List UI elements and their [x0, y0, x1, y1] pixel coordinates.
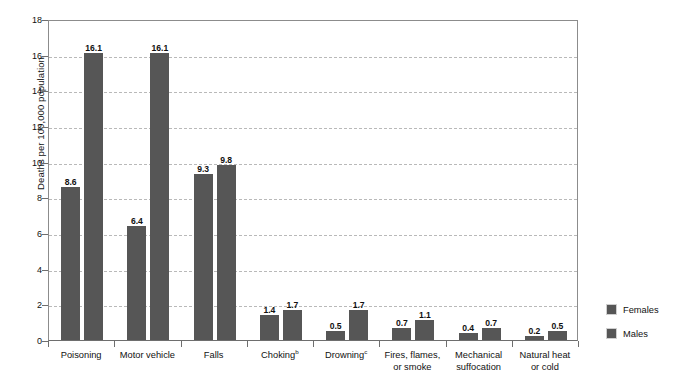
legend-label: Males [623, 329, 648, 339]
x-axis-tick-mark [446, 341, 447, 347]
plot-area: 8.616.16.416.19.39.81.41.70.51.70.71.10.… [48, 20, 578, 341]
x-axis-tick-mark [247, 341, 248, 347]
y-axis-tick-label: 14 [2, 86, 42, 96]
bar [392, 328, 411, 340]
bar [150, 53, 169, 340]
category-label-line1: Fires, flames, [384, 350, 440, 362]
bar-value-label: 0.4 [462, 323, 474, 333]
bar [217, 165, 236, 340]
bar-value-label: 1.1 [419, 310, 431, 320]
bar-value-label: 16.1 [85, 43, 102, 53]
bar-value-label: 0.5 [330, 321, 342, 331]
bar [482, 328, 501, 340]
category-label-line2: suffocation [455, 362, 502, 374]
bar [525, 336, 544, 340]
gridline [49, 199, 577, 200]
y-axis-tick-label: 4 [2, 265, 42, 275]
category-label-line1: Drowningc [325, 350, 367, 362]
bar-value-label: 0.5 [551, 321, 563, 331]
x-axis-category-label: Fires, flames,or smoke [384, 350, 440, 373]
bar [61, 187, 80, 340]
x-axis-tick-mark [578, 341, 579, 347]
legend-swatch-icon [606, 328, 617, 339]
y-axis-tick-label: 10 [2, 158, 42, 168]
category-label-line2: or smoke [384, 362, 440, 374]
category-label-line2: or cold [520, 362, 571, 374]
gridline [49, 57, 577, 58]
bar-value-label: 6.4 [131, 216, 143, 226]
x-axis-category-label: Motor vehicle [120, 350, 175, 362]
bar [326, 331, 345, 340]
bar [127, 226, 146, 340]
bar-value-label: 1.4 [263, 305, 275, 315]
gridline [49, 164, 577, 165]
category-footnote-marker: c [364, 348, 367, 355]
y-axis-tick-label: 2 [2, 300, 42, 310]
y-axis-tick-label: 18 [2, 15, 42, 25]
x-axis-tick-mark [512, 341, 513, 347]
gridline [49, 92, 577, 93]
x-axis-category-label: Chokingb [261, 350, 299, 362]
x-axis-category-label: Natural heator cold [520, 350, 571, 373]
x-axis-category-label: Drowningc [325, 350, 367, 362]
bar-value-label: 9.3 [197, 164, 209, 174]
bar-value-label: 0.2 [528, 326, 540, 336]
bar-value-label: 1.7 [353, 300, 365, 310]
category-label-line1: Falls [204, 350, 224, 362]
category-label-line1: Motor vehicle [120, 350, 175, 362]
category-label-line1: Natural heat [520, 350, 571, 362]
bar [349, 310, 368, 340]
legend-item-males[interactable]: Males [606, 327, 659, 340]
x-axis-tick-mark [181, 341, 182, 347]
bar-value-label: 1.7 [286, 300, 298, 310]
x-axis-tick-mark [48, 341, 49, 347]
category-label-line1: Mechanical [455, 350, 502, 362]
bar [548, 331, 567, 340]
x-axis-tick-mark [114, 341, 115, 347]
x-axis-category-label: Mechanicalsuffocation [455, 350, 502, 373]
legend-label: Females [623, 305, 659, 315]
category-label-line1: Poisoning [61, 350, 102, 362]
legend-swatch-icon [606, 304, 617, 315]
bar-chart-figure: Deaths per 100,000 population 0246810121… [0, 0, 682, 386]
legend: FemalesMales [606, 303, 659, 351]
x-axis-category-label: Falls [204, 350, 224, 362]
y-axis-tick-label: 0 [2, 336, 42, 346]
category-footnote-marker: b [295, 348, 298, 355]
y-axis-tick-label: 16 [2, 51, 42, 61]
bar-value-label: 9.8 [220, 155, 232, 165]
x-axis-tick-mark [313, 341, 314, 347]
bar [194, 174, 213, 340]
y-axis-tick-label: 8 [2, 193, 42, 203]
category-label-line1: Chokingb [261, 350, 299, 362]
y-axis-tick-label: 12 [2, 122, 42, 132]
legend-item-females[interactable]: Females [606, 303, 659, 316]
bar-value-label: 16.1 [152, 43, 169, 53]
bar [260, 315, 279, 340]
x-axis-category-label: Poisoning [61, 350, 102, 362]
bar-value-label: 8.6 [65, 177, 77, 187]
bar-value-label: 0.7 [396, 318, 408, 328]
bar [84, 53, 103, 340]
gridline [49, 128, 577, 129]
bar [415, 320, 434, 340]
y-axis-tick-label: 6 [2, 229, 42, 239]
x-axis-tick-mark [379, 341, 380, 347]
bar-value-label: 0.7 [485, 318, 497, 328]
bar [459, 333, 478, 340]
bar [283, 310, 302, 340]
